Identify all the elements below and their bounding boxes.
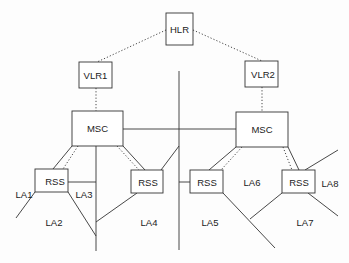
link-msc1-rss1 bbox=[53, 146, 72, 169]
boundary-la5-la6 bbox=[223, 193, 275, 248]
la8-label: LA8 bbox=[322, 178, 339, 189]
link-msc2-rss4-dotted bbox=[283, 147, 292, 170]
la4-label: LA4 bbox=[141, 217, 158, 228]
msc1-label: MSC bbox=[87, 123, 108, 134]
la7-label: LA7 bbox=[297, 217, 314, 228]
boundary-la6-la7 bbox=[250, 193, 282, 219]
rss4-label: RSS bbox=[289, 177, 309, 188]
link-msc1-rss1-dotted bbox=[63, 146, 78, 169]
diagram-canvas: HLR VLR1 VLR2 MSC MSC RSS RSS RSS RSS LA… bbox=[0, 0, 349, 263]
link-msc1-rss2 bbox=[123, 146, 145, 170]
msc2-label: MSC bbox=[251, 124, 272, 135]
link-msc1-rss2-dotted bbox=[117, 146, 139, 170]
la1-label: LA1 bbox=[16, 189, 33, 200]
link-hlr-vlr2 bbox=[193, 30, 262, 61]
la3-label: LA3 bbox=[76, 189, 93, 200]
vlr2-label: VLR2 bbox=[251, 69, 275, 80]
boundary-rss2-center bbox=[161, 146, 179, 170]
la2-label: LA2 bbox=[46, 217, 63, 228]
rss2-label: RSS bbox=[138, 177, 158, 188]
hlr-label: HLR bbox=[170, 24, 189, 35]
rss1-label: RSS bbox=[45, 176, 65, 187]
diagram-svg: HLR VLR1 VLR2 MSC MSC RSS RSS RSS RSS LA… bbox=[0, 0, 349, 263]
la6-label: LA6 bbox=[244, 177, 261, 188]
rss3-label: RSS bbox=[197, 177, 217, 188]
la5-label: LA5 bbox=[202, 217, 219, 228]
link-msc2-rss3 bbox=[209, 147, 236, 170]
link-msc2-rss4 bbox=[288, 147, 299, 170]
link-hlr-vlr1 bbox=[97, 30, 166, 62]
boundary-la6-la8 bbox=[305, 150, 338, 170]
boundary-la3-la4 bbox=[96, 193, 137, 222]
boundary-la7-la8 bbox=[308, 193, 338, 216]
vlr1-label: VLR1 bbox=[84, 70, 108, 81]
